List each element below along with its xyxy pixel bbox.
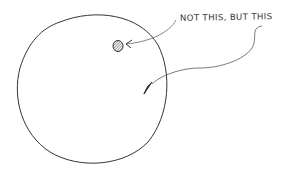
hatched-dot-icon — [113, 41, 123, 52]
arrow-to-dot — [126, 20, 176, 44]
arrow-to-center — [152, 26, 262, 84]
large-circle — [17, 15, 167, 163]
arrowhead-center-icon — [144, 82, 152, 94]
annotation-label: NOT THIS, BUT THIS — [180, 11, 273, 23]
diagram-canvas — [0, 0, 293, 173]
